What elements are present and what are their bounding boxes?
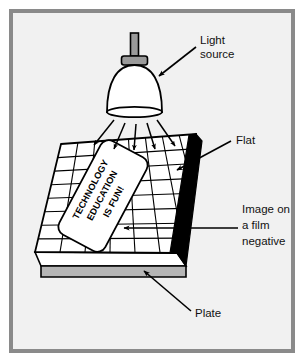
- label-film-negative-line3: negative: [242, 235, 285, 247]
- leader-light-source: [159, 47, 196, 76]
- label-light-source-line1: Light: [200, 34, 226, 46]
- diagram-canvas: TECHNOLOGY EDUCATION IS FUN!: [0, 0, 304, 362]
- lamp-dome-rim: [107, 107, 162, 117]
- figure-root: TECHNOLOGY EDUCATION IS FUN!: [0, 0, 304, 362]
- label-plate: Plate: [195, 307, 221, 319]
- lamp-collar: [122, 56, 148, 65]
- plate-shape: [35, 252, 186, 277]
- label-film-negative-line1: Image on: [242, 203, 290, 215]
- label-flat: Flat: [236, 134, 256, 146]
- label-flat-line1: Flat: [236, 134, 256, 146]
- label-plate-line1: Plate: [195, 307, 221, 319]
- label-film-negative: Image on a film negative: [242, 203, 290, 247]
- label-light-source-line2: source: [200, 48, 235, 60]
- label-film-negative-line2: a film: [242, 219, 269, 231]
- label-light-source: Light source: [200, 34, 235, 60]
- plate-front-face: [35, 252, 186, 266]
- lamp-stem: [131, 33, 139, 56]
- light-source-lamp: [107, 33, 162, 117]
- lamp-dome: [107, 65, 162, 112]
- plate-side-band: [41, 266, 186, 277]
